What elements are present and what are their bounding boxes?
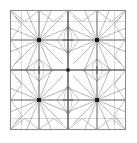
hub-top-left	[37, 38, 41, 42]
hub-bottom-left	[37, 98, 41, 102]
hub-top-right	[95, 38, 99, 42]
hub-bottom-right	[95, 98, 99, 102]
geometric-diagram-figure	[0, 0, 137, 143]
center-hub-dot	[66, 68, 69, 71]
diagram-canvas	[0, 0, 137, 143]
